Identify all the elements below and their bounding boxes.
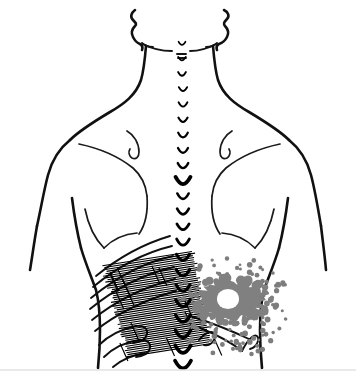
pain-blob-fringe bbox=[206, 277, 214, 285]
pain-blob-fringe bbox=[253, 281, 257, 285]
stipple-dot bbox=[224, 339, 227, 342]
stipple-dot bbox=[188, 338, 194, 344]
stipple-dot bbox=[190, 302, 193, 305]
stipple-dot bbox=[247, 339, 253, 345]
pain-blob-fringe bbox=[244, 276, 253, 285]
pain-blob-fringe bbox=[196, 287, 199, 290]
stipple-dot bbox=[194, 327, 199, 332]
stipple-dot bbox=[249, 352, 254, 357]
stipple-dot bbox=[275, 282, 281, 288]
pain-blob-fringe bbox=[209, 313, 215, 319]
stipple-dot bbox=[255, 344, 259, 348]
back-anatomy-illustration bbox=[0, 0, 356, 376]
stipple-dot bbox=[235, 266, 239, 270]
stipple-dot bbox=[209, 338, 213, 342]
stipple-dot bbox=[220, 342, 225, 347]
stipple-dot bbox=[213, 340, 217, 344]
pain-blob-fringe bbox=[233, 321, 238, 326]
stipple-dot bbox=[229, 340, 233, 344]
stipple-dot bbox=[247, 262, 253, 268]
stipple-dot bbox=[268, 338, 273, 343]
pain-blob-fringe bbox=[220, 274, 228, 282]
stipple-dot bbox=[241, 341, 245, 345]
stipple-dot bbox=[210, 350, 215, 355]
stipple-dot bbox=[213, 330, 217, 334]
stipple-dot bbox=[261, 268, 264, 271]
pain-blob-fringe bbox=[213, 278, 219, 284]
stipple-dot bbox=[225, 256, 229, 260]
stipple-dot bbox=[262, 322, 267, 327]
stipple-dot bbox=[228, 328, 231, 331]
stipple-dot bbox=[247, 325, 251, 329]
stipple-dot bbox=[209, 322, 213, 326]
stipple-dot bbox=[280, 280, 285, 285]
pain-blob-fringe bbox=[199, 307, 207, 315]
pain-blob-fringe bbox=[261, 307, 269, 315]
stipple-dot bbox=[250, 272, 254, 276]
stipple-dot bbox=[273, 303, 279, 309]
stipple-dot bbox=[271, 271, 275, 275]
stipple-dot bbox=[251, 258, 256, 263]
stipple-dot bbox=[265, 317, 271, 323]
pain-blob-fringe bbox=[268, 297, 274, 303]
pain-blob-fringe bbox=[189, 293, 193, 297]
stipple-dot bbox=[255, 273, 260, 278]
pain-blob-fringe bbox=[263, 290, 268, 295]
stipple-dot bbox=[181, 296, 186, 301]
stipple-dot bbox=[265, 280, 269, 284]
stipple-dot bbox=[277, 326, 281, 330]
stipple-dot bbox=[239, 267, 242, 270]
pain-blob-fringe bbox=[222, 319, 229, 326]
stipple-dot bbox=[197, 283, 200, 286]
stipple-dot bbox=[281, 309, 284, 312]
stipple-dot bbox=[232, 333, 236, 337]
stipple-dot bbox=[212, 264, 216, 268]
stipple-dot bbox=[211, 258, 214, 261]
stipple-dot bbox=[274, 288, 279, 293]
stipple-dot bbox=[256, 348, 261, 353]
pain-blob-fringe bbox=[256, 285, 260, 289]
stipple-dot bbox=[182, 280, 186, 284]
stipple-dot bbox=[261, 334, 264, 337]
stipple-dot bbox=[231, 347, 235, 351]
stipple-dot bbox=[239, 263, 242, 266]
stipple-dot bbox=[199, 265, 203, 269]
stipple-dot bbox=[238, 345, 243, 350]
stipple-dot bbox=[271, 331, 274, 334]
pain-blob-fringe bbox=[247, 311, 256, 320]
stipple-dot bbox=[257, 339, 260, 342]
pain-blob-core bbox=[217, 289, 239, 309]
stipple-dot bbox=[216, 272, 219, 275]
stipple-dot bbox=[193, 293, 198, 298]
stipple-dot bbox=[242, 331, 248, 337]
pain-blob-fringe bbox=[194, 301, 198, 305]
stipple-dot bbox=[260, 328, 265, 333]
pain-pattern-figure bbox=[0, 0, 356, 376]
stipple-dot bbox=[284, 317, 288, 321]
